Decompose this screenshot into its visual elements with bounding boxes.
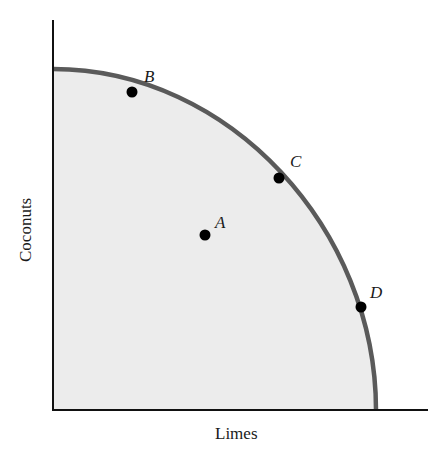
point-d-label: D bbox=[370, 283, 382, 303]
point-b-marker bbox=[127, 87, 138, 98]
point-d-marker bbox=[356, 302, 367, 313]
point-a-label: A bbox=[215, 213, 225, 233]
point-b-label: B bbox=[144, 67, 154, 87]
point-c-label: C bbox=[290, 152, 301, 172]
point-a-marker bbox=[200, 230, 211, 241]
x-axis-label: Limes bbox=[215, 424, 258, 444]
point-c-marker bbox=[274, 173, 285, 184]
y-axis-label: Coconuts bbox=[16, 198, 36, 262]
feasible-region bbox=[53, 69, 376, 410]
